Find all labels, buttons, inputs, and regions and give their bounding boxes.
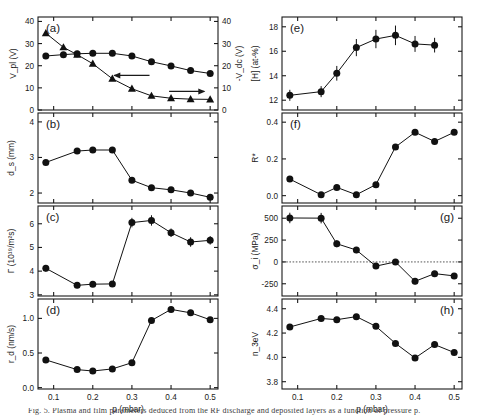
series-d-r_d <box>42 306 213 375</box>
figure-root: 010203040010203040(a)V_pl (V)-V_dc (V)23… <box>0 0 488 420</box>
datapoint-a-V_pl-5 <box>128 52 135 59</box>
datapoint-d-r_d-0 <box>42 356 49 363</box>
yticklabel-e-2: 16 <box>269 47 279 56</box>
datapoint-h-n_3eV-8 <box>451 349 458 356</box>
yticklabel-h-0: 3.8 <box>267 378 279 387</box>
datapoint-a-V_pl-7 <box>168 62 175 69</box>
datapoint-f-R_star-1 <box>318 191 325 198</box>
panel-frame-e <box>282 17 462 110</box>
panel-label-b: (b) <box>46 118 60 130</box>
datapoint-e-H_content-5 <box>392 32 399 39</box>
xticklabel-h-2: 0.3 <box>370 393 382 402</box>
dataline-c-0 <box>46 220 210 285</box>
dataline-g-0 <box>290 218 454 281</box>
datapoint-d-r_d-5 <box>148 317 155 324</box>
datapoint-c-Gamma-7 <box>187 239 194 246</box>
datapoint-g-sigma_i-5 <box>392 258 399 265</box>
datapoint-d-r_d-7 <box>187 309 194 316</box>
dataline-a-1 <box>46 33 210 99</box>
series-a-V_pl <box>42 50 213 77</box>
yticklabel-g-3: 500 <box>264 214 278 223</box>
panel-label-d: (d) <box>46 304 60 316</box>
dataline-f-0 <box>290 132 454 194</box>
ylabel-c: Γ (10¹⁹/m²s) <box>6 229 16 274</box>
panel-b: 234(b)d_s (mm) <box>6 113 218 203</box>
panel-frame-g <box>282 206 462 296</box>
series-f-R_star <box>286 129 457 198</box>
datapoint-f-R_star-4 <box>372 181 379 188</box>
datapoint-h-n_3eV-3 <box>353 313 360 320</box>
datapoint-e-H_content-3 <box>353 44 360 51</box>
datapoint-f-R_star-3 <box>353 191 360 198</box>
ylabel-e: [H] (at-%) <box>250 45 260 81</box>
yticklabel-a-4: 40 <box>25 17 35 26</box>
datapoint-c-Gamma-0 <box>42 265 49 272</box>
left-arrow-icon <box>113 72 120 78</box>
yticklabel-h-1: 4.0 <box>267 353 279 362</box>
datapoint-d-r_d-6 <box>168 306 175 313</box>
datapoint-h-n_3eV-2 <box>333 316 340 323</box>
datapoint-f-R_star-0 <box>286 176 293 183</box>
yticklabel-d-0: 0.0 <box>23 384 35 393</box>
figure-caption-strip: Fig. 5. Plasma and film parameters deduc… <box>0 408 488 420</box>
panel-frame-c <box>38 206 218 296</box>
panel-label-h: (h) <box>440 304 454 316</box>
panel-frame-b <box>38 113 218 203</box>
datapoint-c-Gamma-4 <box>128 219 135 226</box>
dataline-h-0 <box>290 317 454 358</box>
datapoint-h-n_3eV-4 <box>372 323 379 330</box>
panel-label-c: (c) <box>46 211 60 223</box>
datapoint-a-V_pl-4 <box>109 50 116 57</box>
yticklabel-c-2: 5 <box>29 243 34 252</box>
datapoint-f-R_star-2 <box>333 184 340 191</box>
panel-d: 0.00.51.00.10.20.30.40.5(d)r_d (nm/s) <box>6 299 218 402</box>
datapoint-b-d_s-7 <box>187 190 194 197</box>
ylabel-f: R* <box>250 153 260 163</box>
yticklabel-h-2: 4.2 <box>267 329 279 338</box>
panel-g: -2500250500(g)σ_i (MPa) <box>250 206 462 296</box>
series-e-H_content <box>286 26 438 101</box>
datapoint-b-d_s-0 <box>42 159 49 166</box>
panel-c: 3456(c)Γ (10¹⁹/m²s) <box>6 206 218 300</box>
datapoint-h-n_3eV-0 <box>286 323 293 330</box>
xticklabel-d-2: 0.3 <box>126 393 138 402</box>
ylabel-h: n_3eV <box>250 331 260 356</box>
datapoint-d-r_d-3 <box>109 365 116 372</box>
datapoint-g-sigma_i-8 <box>451 272 458 279</box>
datapoint-a-V_pl-1 <box>60 51 67 58</box>
datapoint-a-V_pl-8 <box>187 67 194 74</box>
datapoint-d-r_d-8 <box>207 316 214 323</box>
datapoint-g-sigma_i-3 <box>353 247 360 254</box>
datapoint-h-n_3eV-6 <box>412 354 419 361</box>
yticklabel-g-1: 0 <box>273 258 278 267</box>
datapoint-a-V_pl-6 <box>148 58 155 65</box>
yticklabel-b-1: 3 <box>29 153 34 162</box>
panel-label-g: (g) <box>440 211 454 223</box>
datapoint-a--V_dc-1 <box>59 43 67 50</box>
panel-a: 010203040010203040(a)V_pl (V)-V_dc (V) <box>8 17 244 115</box>
yticklabel-c-3: 6 <box>29 220 34 229</box>
datapoint-a-V_pl-0 <box>42 52 49 59</box>
datapoint-b-d_s-1 <box>74 148 81 155</box>
y2ticklabel-a-4: 40 <box>222 17 232 26</box>
yticklabel-h-3: 4.4 <box>267 305 279 314</box>
dataline-a-0 <box>46 53 210 73</box>
datapoint-h-n_3eV-1 <box>318 315 325 322</box>
datapoint-e-H_content-2 <box>333 70 340 77</box>
yticklabel-a-0: 0 <box>29 106 34 115</box>
datapoint-e-H_content-6 <box>412 40 419 47</box>
dataline-d-0 <box>46 309 210 371</box>
xticklabel-d-1: 0.2 <box>87 393 99 402</box>
series-b-d_s <box>42 146 213 200</box>
datapoint-b-d_s-3 <box>109 146 116 153</box>
yticklabel-a-1: 10 <box>25 84 35 93</box>
datapoint-b-d_s-8 <box>207 194 214 201</box>
y2ticklabel-a-0: 0 <box>222 106 227 115</box>
datapoint-g-sigma_i-7 <box>431 270 438 277</box>
panel-h: 3.84.04.24.40.10.20.30.40.5(h)n_3eV <box>250 299 462 402</box>
datapoint-c-Gamma-6 <box>168 229 175 236</box>
datapoint-c-Gamma-1 <box>74 282 81 289</box>
datapoint-g-sigma_i-1 <box>318 215 325 222</box>
datapoint-f-R_star-7 <box>431 138 438 145</box>
yticklabel-a-3: 30 <box>25 40 35 49</box>
